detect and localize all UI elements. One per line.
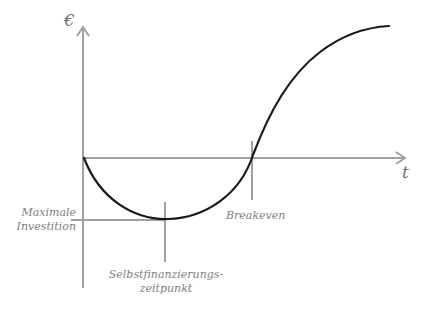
- self-financing-label: Selbstfinanzierungs- zeitpunkt: [104, 268, 228, 296]
- max-investment-line2: Investition: [12, 220, 76, 234]
- max-investment-label: Maximale Investition: [12, 206, 76, 234]
- chart-canvas: [0, 0, 421, 311]
- self-financing-line1: Selbstfinanzierungs-: [104, 268, 228, 282]
- y-axis-label: €: [64, 10, 75, 30]
- self-financing-line2: zeitpunkt: [104, 282, 228, 296]
- max-investment-line1: Maximale: [12, 206, 76, 220]
- breakeven-label: Breakeven: [226, 209, 285, 223]
- cash-flow-curve: [84, 26, 389, 219]
- x-axis-label: t: [402, 162, 409, 182]
